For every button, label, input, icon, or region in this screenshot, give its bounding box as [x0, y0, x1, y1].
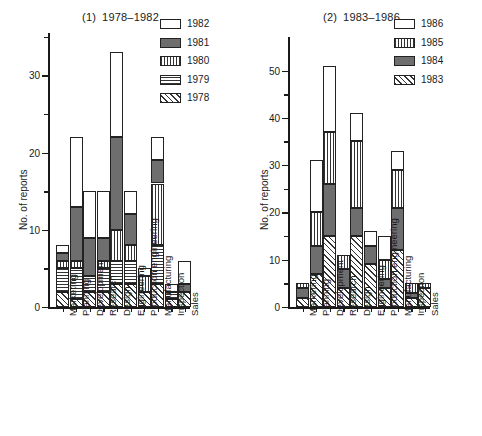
bar-segment-1986: [350, 113, 363, 141]
y-axis-minor-tick: [284, 283, 288, 284]
y-axis-tick-label: 40: [254, 112, 280, 123]
panel-2-y-axis-title: No. of reports: [259, 169, 270, 230]
x-axis-label-engineering: Engineering: [135, 265, 146, 316]
bar-segment-1982: [70, 137, 83, 206]
bar-segment-1981: [70, 207, 83, 261]
x-axis-label-inspection: Inspection: [175, 273, 186, 316]
bar-segment-1981: [56, 253, 69, 261]
x-axis-label-production-engineering: Production engineering: [148, 218, 159, 316]
bar-segment-1984: [364, 246, 377, 265]
bar-segment-1982: [124, 191, 137, 214]
legend-swatch-1984: [394, 56, 415, 66]
y-axis-tick-label: 50: [254, 65, 280, 76]
legend-label-1985: 1985: [421, 37, 443, 49]
bar-segment-1981: [110, 137, 123, 230]
legend-swatch-1979: [160, 75, 181, 85]
y-axis-minor-tick: [284, 94, 288, 95]
y-axis-tick-label: 20: [254, 207, 280, 218]
bar-planning[interactable]: [310, 37, 323, 307]
bar-segment-1980: [110, 230, 123, 261]
panel-2-range: 1983–1986: [343, 11, 400, 23]
bar-segment-1985: [350, 141, 363, 207]
y-axis-minor-tick: [44, 268, 48, 269]
x-axis-tick: [63, 308, 64, 312]
legend-swatch-1982: [160, 19, 181, 29]
x-axis-label-manufacturing: Manufacturing: [402, 256, 413, 316]
bar-segment-1984: [323, 184, 336, 236]
x-axis-label-production-engineering: Production engineering: [388, 218, 399, 316]
legend-label-1980: 1980: [187, 55, 209, 67]
bar-segment-1982: [151, 137, 164, 160]
y-axis-tick: [42, 230, 49, 231]
y-axis-tick: [282, 212, 289, 213]
y-axis-tick-label: 30: [254, 160, 280, 171]
legend-swatch-1985: [394, 38, 415, 48]
y-axis-tick: [282, 260, 289, 261]
y-axis-minor-tick: [284, 236, 288, 237]
legend-label-1979: 1979: [187, 74, 209, 86]
bar-design[interactable]: [350, 37, 363, 307]
legend-label-1978: 1978: [187, 92, 209, 104]
x-axis-label-development: Development: [94, 260, 105, 316]
x-axis-label-sales: Sales: [189, 292, 200, 316]
bar-segment-1985: [391, 170, 404, 208]
y-axis-tick: [282, 118, 289, 119]
y-axis-tick: [42, 307, 49, 308]
bar-segment-1982: [56, 245, 69, 253]
panel-2-title: (2)1983–1986: [241, 11, 482, 23]
x-axis-label-design: Design: [361, 286, 372, 316]
legend-label-1983: 1983: [421, 74, 443, 86]
y-axis-minor-tick: [284, 189, 288, 190]
panel-1-number: (1): [82, 11, 96, 23]
x-axis-label-sales: Sales: [429, 292, 440, 316]
bar-design[interactable]: [110, 33, 123, 307]
bar-segment-1986: [323, 66, 336, 132]
y-axis-minor-tick: [44, 114, 48, 115]
bar-planning[interactable]: [70, 33, 83, 307]
bar-segment-1981: [151, 160, 164, 183]
y-axis-tick: [42, 153, 49, 154]
bar-segment-1982: [83, 191, 96, 237]
legend-label-1984: 1984: [421, 55, 443, 67]
legend-label-1981: 1981: [187, 37, 209, 49]
x-axis-label-planning: Planning: [320, 279, 331, 316]
panel-1-y-axis-title: No. of reports: [18, 169, 29, 230]
y-axis-line: [48, 33, 50, 308]
bar-segment-1984: [310, 246, 323, 274]
y-axis-tick-label: 30: [14, 70, 40, 81]
y-axis-minor-tick: [44, 191, 48, 192]
y-axis-tick: [282, 165, 289, 166]
bar-segment-1985: [323, 132, 336, 184]
y-axis-tick: [42, 75, 49, 76]
bar-segment-1986: [364, 231, 377, 245]
bar-segment-1981: [124, 214, 137, 245]
panel-1983-1986: (2)1983–1986 No. of reports 01020304050 …: [241, 0, 482, 436]
y-axis-tick: [282, 71, 289, 72]
x-axis-label-manufacturing: Manufacturing: [162, 256, 173, 316]
bar-segment-1980: [56, 261, 69, 269]
x-axis-label-development: Development: [334, 260, 345, 316]
panel-1978-1982: (1)1978–1982 No. of reports 0102030 Mark…: [0, 0, 241, 436]
x-axis-label-engineering: Engineering: [375, 265, 386, 316]
figure-stacked-bar-charts: (1)1978–1982 No. of reports 0102030 Mark…: [0, 0, 482, 436]
legend-swatch-1978: [160, 93, 181, 103]
y-axis-minor-tick: [284, 141, 288, 142]
y-axis-tick-label: 0: [254, 302, 280, 313]
bar-segment-1984: [350, 208, 363, 236]
y-axis-tick-label: 0: [14, 302, 40, 313]
y-axis-minor-tick: [44, 37, 48, 38]
x-axis-tick: [303, 308, 304, 312]
legend-label-1982: 1982: [187, 18, 209, 30]
bar-segment-1982: [97, 191, 110, 237]
bar-segment-1980: [70, 261, 83, 269]
legend-swatch-1986: [394, 19, 415, 29]
bar-marketing[interactable]: [56, 33, 69, 307]
x-axis-label-inspection: Inspection: [415, 273, 426, 316]
bar-marketing[interactable]: [296, 37, 309, 307]
x-axis-label-research: Research: [107, 275, 118, 316]
x-axis-label-marketing: Marketing: [307, 274, 318, 316]
legend-swatch-1981: [160, 38, 181, 48]
y-axis-tick-label: 10: [14, 224, 40, 235]
bar-segment-1985: [310, 212, 323, 245]
panel-2-number: (2): [323, 11, 337, 23]
